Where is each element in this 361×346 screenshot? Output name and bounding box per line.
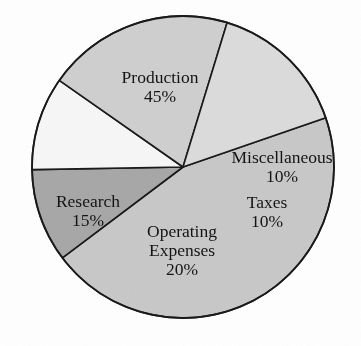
pie-label-line: Taxes [247, 192, 288, 212]
pie-chart-canvas: Production45%Miscellaneous10%Taxes10%Ope… [0, 0, 361, 346]
pie-label-line: Operating [147, 221, 217, 241]
pie-label-line: Miscellaneous [231, 147, 332, 167]
pie-label-line: Expenses [149, 240, 215, 260]
pie-label-line: 45% [144, 86, 176, 106]
pie-label-line: 10% [266, 166, 298, 186]
pie-label-line: Production [122, 67, 199, 87]
pie-label-line: Research [56, 191, 120, 211]
pie-chart: Production45%Miscellaneous10%Taxes10%Ope… [0, 0, 361, 346]
pie-label-line: 20% [166, 259, 198, 279]
pie-label-line: 10% [251, 211, 283, 231]
pie-label-line: 15% [72, 210, 104, 230]
pie-label-taxes: Taxes10% [247, 192, 288, 231]
